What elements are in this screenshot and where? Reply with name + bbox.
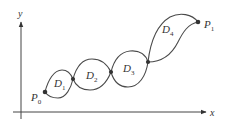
label-d3: D3 [122,62,135,77]
label-d1: D1 [53,77,66,92]
x-axis-label: x [209,107,215,118]
label-d2: D2 [85,69,98,84]
point-p1 [196,20,201,25]
y-axis-label: y [17,8,23,19]
junction-d2-d3 [109,70,113,74]
label-d4: D4 [161,23,174,38]
point-p0 [43,90,48,95]
label-p1: P1 [203,18,215,33]
region-d4-boundary [148,14,198,62]
junction-d1-d2 [71,77,75,81]
label-p0: P0 [30,91,42,106]
diagram-canvas: y x P0 P1 D1 D2 D3 D4 [0,0,228,127]
junction-d3-d4 [146,60,150,64]
